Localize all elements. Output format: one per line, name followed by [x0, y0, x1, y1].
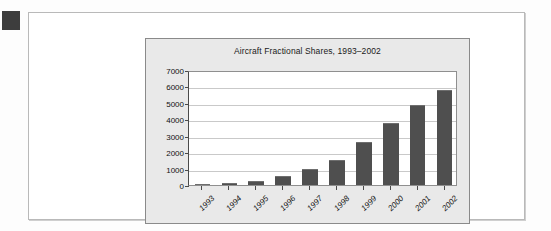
bar [410, 105, 426, 185]
x-axis-tick-label: 1999 [359, 194, 378, 213]
x-axis-tick-label: 1994 [225, 194, 244, 213]
bar [195, 184, 211, 185]
bars-layer [189, 72, 456, 185]
bar [275, 176, 291, 185]
x-axis-tick-label: 1993 [198, 194, 217, 213]
x-axis-tick-label: 1997 [305, 194, 324, 213]
x-axis-tick-mark [363, 186, 364, 190]
x-axis-labels: 1993199419951996199719981999200020012002 [188, 191, 457, 225]
x-axis-tick-label: 2002 [440, 194, 459, 213]
x-axis-tick-mark [336, 186, 337, 190]
x-axis-tick-label: 2001 [413, 194, 432, 213]
bar [222, 183, 238, 185]
x-axis-tick-label: 1996 [279, 194, 298, 213]
bar-chart: Aircraft Fractional Shares, 1993–2002 01… [145, 38, 470, 224]
bar [383, 123, 399, 185]
x-axis-tick-mark [228, 186, 229, 190]
x-axis-tick-mark [255, 186, 256, 190]
x-axis-tick-label: 2000 [386, 194, 405, 213]
x-axis-tick-label: 1995 [252, 194, 271, 213]
page-sheet: Aircraft Fractional Shares, 1993–2002 01… [28, 12, 525, 220]
plot-area [188, 71, 457, 186]
x-axis-tick-mark [444, 186, 445, 190]
bar [302, 169, 318, 185]
bar [356, 142, 372, 185]
bar [329, 160, 345, 185]
x-axis-tick-mark [282, 186, 283, 190]
chart-title: Aircraft Fractional Shares, 1993–2002 [146, 46, 469, 56]
bar [437, 90, 453, 185]
x-axis-tick-label: 1998 [332, 194, 351, 213]
y-axis-ticks [146, 71, 191, 186]
x-axis-tick-mark [390, 186, 391, 190]
black-square-marker [2, 11, 20, 30]
x-axis-tick-mark [417, 186, 418, 190]
x-axis-tick-mark [201, 186, 202, 190]
bar [248, 181, 264, 185]
x-axis-tick-mark [309, 186, 310, 190]
